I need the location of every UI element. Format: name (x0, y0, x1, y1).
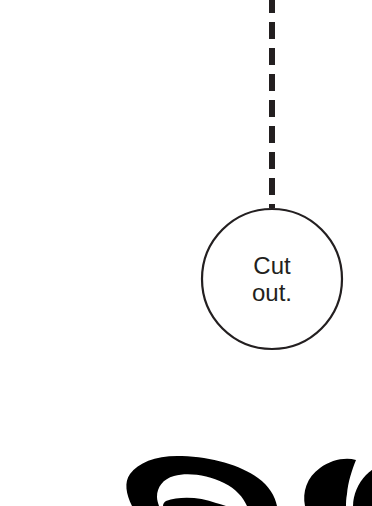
diagram-vector-layer (0, 0, 372, 506)
node-circle (202, 209, 342, 349)
diagram-canvas: Cut out. (0, 0, 372, 506)
cut-out-node[interactable] (202, 209, 342, 349)
